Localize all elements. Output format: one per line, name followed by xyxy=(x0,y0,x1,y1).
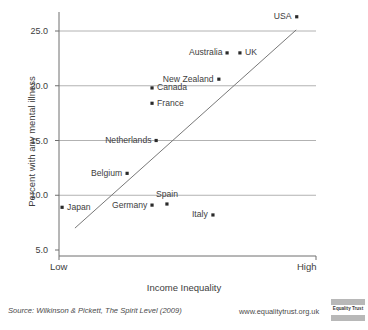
data-point-marker xyxy=(238,51,241,54)
logo-bar-top xyxy=(331,299,365,305)
data-point-label: Italy xyxy=(192,210,208,219)
logo-label: Equality Trust xyxy=(331,306,365,311)
x-axis-title: Income Inequality xyxy=(0,282,368,293)
trendline xyxy=(75,30,296,228)
data-point-marker xyxy=(150,86,153,89)
data-point-marker xyxy=(60,206,63,209)
chart-figure: 5.010.015.020.025.0 Low High Income Ineq… xyxy=(0,0,368,330)
scatter-plot-canvas xyxy=(0,0,368,330)
equality-trust-logo: Equality Trust xyxy=(331,299,365,321)
data-point-marker xyxy=(150,102,153,105)
x-axis-tick-label-low: Low xyxy=(50,261,67,272)
logo-bar-bottom xyxy=(331,315,365,321)
y-axis-tick-label: 5.0 xyxy=(12,245,48,255)
data-points xyxy=(60,15,298,216)
y-axis-ticks xyxy=(55,31,59,250)
data-point-label: USA xyxy=(274,12,292,21)
x-axis-tick-label-high: High xyxy=(297,261,317,272)
data-point-marker xyxy=(211,213,214,216)
website-url: www.equalitytrust.org.uk xyxy=(239,307,319,316)
y-axis-tick-label: 25.0 xyxy=(12,26,48,36)
data-point-label: Germany xyxy=(112,201,147,210)
data-point-marker xyxy=(165,202,168,205)
data-point-label: France xyxy=(157,99,184,108)
data-point-label: UK xyxy=(245,48,257,57)
data-point-marker xyxy=(126,172,129,175)
data-point-marker xyxy=(217,78,220,81)
data-point-label: Belgium xyxy=(91,169,122,178)
data-point-marker xyxy=(295,15,298,18)
data-point-label: Canada xyxy=(157,83,187,92)
data-point-label: Spain xyxy=(156,190,178,199)
data-point-marker xyxy=(150,204,153,207)
data-point-label: New Zealand xyxy=(163,75,214,84)
data-point-marker xyxy=(225,51,228,54)
data-point-label: Netherlands xyxy=(105,136,151,145)
axis-lines xyxy=(59,12,316,260)
source-citation: Source: Wilkinson & Pickett, The Spirit … xyxy=(8,306,182,315)
y-axis-title: Percent with any mental illness xyxy=(26,42,37,242)
data-point-label: Australia xyxy=(189,48,222,57)
data-point-marker xyxy=(155,139,158,142)
trendline-path xyxy=(75,30,296,228)
data-point-label: Japan xyxy=(67,203,90,212)
